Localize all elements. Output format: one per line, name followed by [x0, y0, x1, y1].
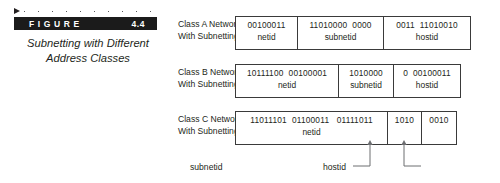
field-bits: 00100011	[248, 20, 286, 31]
field-bits: 1010000	[349, 68, 383, 79]
field-bits: 0 00100011	[403, 68, 451, 79]
figure-caption-line-2: Address Classes	[4, 51, 172, 66]
field-cell-netid: 10111100 00100001 netid	[236, 65, 339, 97]
figure-label-word: FIGURE	[29, 19, 83, 28]
figure-label-bar: FIGURE 4.4	[14, 17, 157, 30]
field-tag: subnetid	[325, 31, 357, 43]
field-bits: 0010	[429, 115, 448, 126]
field-cell-netid: 00100011 netid	[236, 17, 298, 49]
figure-caption: Subnetting with Different Address Classe…	[4, 36, 172, 66]
callout-group: subnetid hostid	[178, 140, 500, 183]
field-cell-hostid: 0 00100011 hostid	[394, 65, 460, 97]
row-label-line-2: With Subnetting	[178, 79, 242, 91]
dotted-line	[24, 11, 164, 12]
row-label-line-1: Class C Network	[178, 114, 242, 126]
row-label-line-2: With Subnetting	[178, 126, 242, 138]
figure-caption-column: FIGURE 4.4 Subnetting with Different Add…	[0, 0, 178, 183]
field-cell-subnetid: 11010000 0000 subnetid	[298, 17, 384, 49]
callout-label-hostid: hostid	[323, 162, 346, 173]
field-bits: 11010000 0000	[309, 20, 371, 31]
triangle-marker-icon	[14, 8, 20, 14]
subnetting-diagram: Class A Network With Subnetting 00100011…	[178, 0, 500, 183]
field-tag: netid	[278, 79, 296, 91]
field-cell-subnetid: 1010000 subnetid	[339, 65, 394, 97]
figure-number: 4.4	[131, 19, 145, 28]
field-tag: netid	[257, 31, 275, 43]
subnetid-arrowhead-icon	[367, 140, 372, 145]
figure-caption-line-1: Subnetting with Different	[4, 36, 172, 51]
field-cell-hostid: 0011 11010010 hostid	[384, 17, 470, 49]
row-label-line-1: Class B Network	[178, 67, 242, 79]
field-tag: hostid	[416, 79, 438, 91]
hostid-arrowhead-icon	[401, 140, 406, 145]
field-bits: 1010	[395, 115, 414, 126]
field-bits: 10111100 00100001	[247, 68, 327, 79]
field-tag: subnetid	[350, 79, 382, 91]
row-label-class-b: Class B Network With Subnetting	[178, 66, 242, 90]
dotted-rule	[14, 8, 164, 15]
address-boxes-class-b: 10111100 00100001 netid 1010000 subnetid…	[235, 64, 461, 98]
row-label-class-c: Class C Network With Subnetting	[178, 113, 242, 137]
address-boxes-class-a: 00100011 netid 11010000 0000 subnetid 00…	[235, 16, 471, 50]
field-bits: 0011 11010010	[396, 20, 458, 31]
row-label-line-1: Class A Network	[178, 19, 242, 31]
callout-label-subnetid: subnetid	[190, 162, 223, 173]
field-tag: hostid	[416, 31, 438, 43]
row-label-line-2: With Subnetting	[178, 31, 242, 43]
row-label-class-a: Class A Network With Subnetting	[178, 18, 242, 42]
field-tag: netid	[302, 126, 320, 138]
field-bits: 11011101 01100011 01111011	[250, 115, 373, 126]
